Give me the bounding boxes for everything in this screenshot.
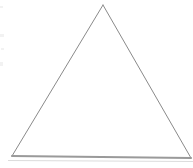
baseline-shadow xyxy=(8,161,193,162)
triangle-right-edge xyxy=(103,5,191,158)
triangle-base-edge xyxy=(12,156,191,158)
triangle-drawing xyxy=(0,0,193,168)
figure-canvas xyxy=(0,0,193,168)
triangle-left-edge xyxy=(12,5,103,156)
